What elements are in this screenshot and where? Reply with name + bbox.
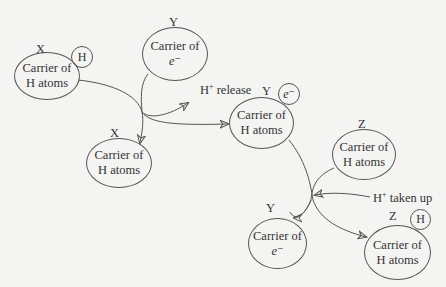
arrow-y1-to-junction xyxy=(141,74,148,112)
node-z2-line1: Carrier of xyxy=(373,238,422,253)
node-z2-ellipse: Carrier of H atoms xyxy=(364,225,431,280)
node-z2-letter: Z xyxy=(389,209,397,224)
node-y2-electron-badge: e⁻ xyxy=(278,83,300,105)
node-x2-line2: H atoms xyxy=(98,163,140,178)
arrow-h-taken-up xyxy=(315,193,370,197)
h-release-label: H+ release xyxy=(200,82,251,98)
node-z2-h-badge: H xyxy=(410,209,431,230)
arrow-to-h-release xyxy=(142,103,188,116)
node-z1-line2: H atoms xyxy=(343,155,385,170)
node-z2-line2: H atoms xyxy=(376,253,418,268)
node-x1-line1: Carrier of xyxy=(23,61,72,76)
node-z1-line1: Carrier of xyxy=(340,140,389,155)
h-taken-up-label: H+ taken up xyxy=(373,190,432,206)
node-x2-ellipse: Carrier of H atoms xyxy=(86,138,152,188)
arrow-z1-to-y3-head xyxy=(294,200,311,218)
node-y1-line2: e⁻ xyxy=(169,54,181,69)
node-y2-line2: H atoms xyxy=(240,123,282,138)
node-y2-line1: Carrier of xyxy=(237,108,286,123)
node-y1-ellipse: Carrier of e⁻ xyxy=(142,27,208,81)
node-y3-ellipse: Carrier of e⁻ xyxy=(248,218,307,269)
node-x1-h-badge: H xyxy=(71,46,93,68)
node-y3-letter: Y xyxy=(266,201,275,216)
node-x2-line1: Carrier of xyxy=(95,148,144,163)
node-x1-ellipse: Carrier of H atoms xyxy=(14,52,80,100)
arrow-to-y2 xyxy=(142,112,228,124)
arrow-z1-to-y3 xyxy=(290,168,334,217)
node-y2-ellipse: Carrier of H atoms xyxy=(229,97,294,149)
node-y3-line1: Carrier of xyxy=(253,229,302,244)
node-y1-line1: Carrier of xyxy=(151,39,200,54)
node-z1-ellipse: Carrier of H atoms xyxy=(332,129,396,180)
node-y3-line2: e⁻ xyxy=(271,244,283,259)
node-x1-line2: H atoms xyxy=(26,76,68,91)
